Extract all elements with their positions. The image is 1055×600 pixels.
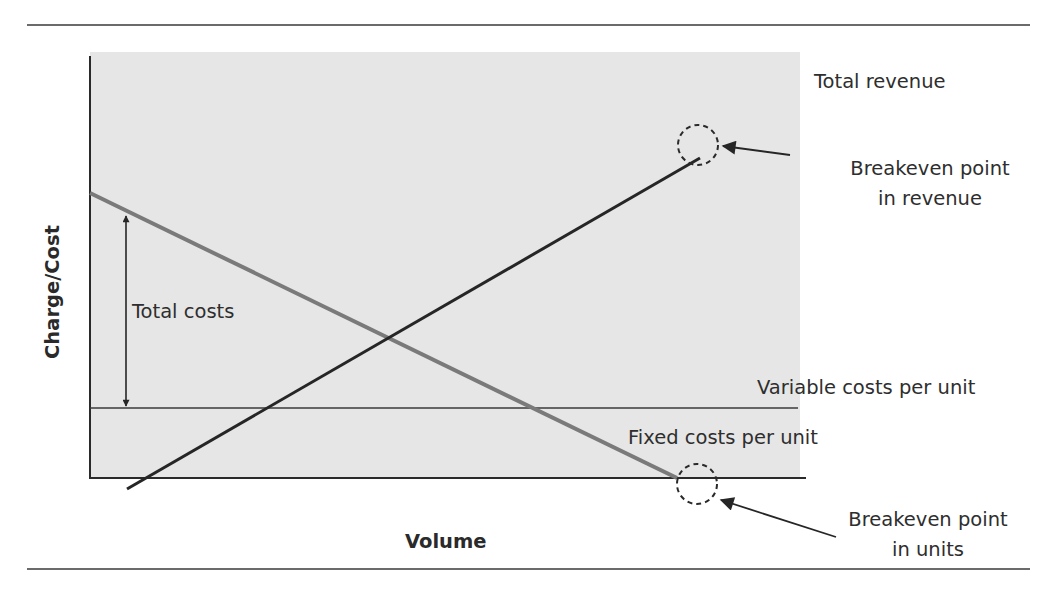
breakeven-revenue-line2: in revenue (800, 187, 1055, 211)
breakeven-units-line2: in units (798, 538, 1055, 562)
breakeven-revenue-line1: Breakeven point (800, 157, 1055, 181)
plot-area (90, 52, 800, 478)
breakeven-diagram: Total revenue Breakeven point in revenue… (0, 0, 1055, 600)
breakeven-units-line1: Breakeven point (798, 508, 1055, 532)
breakeven-units-label: Breakeven point in units (798, 508, 1055, 562)
total-revenue-label: Total revenue (814, 70, 946, 94)
fixed-costs-label: Fixed costs per unit (628, 426, 818, 450)
y-axis-label: Charge/Cost (41, 225, 64, 359)
breakeven-revenue-label: Breakeven point in revenue (800, 157, 1055, 211)
total-costs-label: Total costs (132, 300, 234, 324)
x-axis-label: Volume (405, 530, 487, 553)
variable-costs-label: Variable costs per unit (757, 376, 975, 400)
